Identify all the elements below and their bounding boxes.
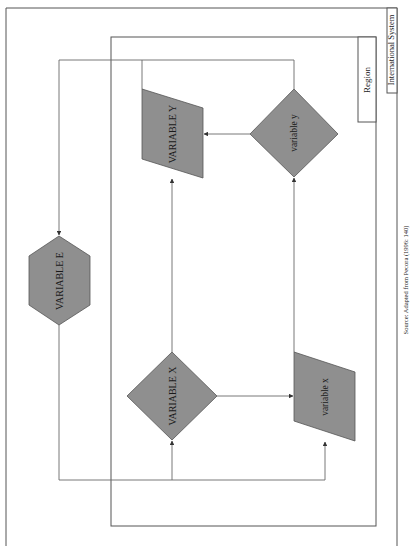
node-variable-X-upper-label: VARIABLE X [167, 366, 178, 426]
node-variable-E-label: VARIABLE E [54, 252, 65, 310]
node-variable-E: VARIABLE E [29, 236, 90, 325]
node-variable-x-lower-label: variable x [320, 378, 330, 416]
international-system-label: International System [386, 14, 396, 85]
node-variable-y-lower-label: variable y [289, 114, 299, 152]
node-variable-X-upper: VARIABLE X [127, 352, 217, 440]
region-label: Region [362, 67, 372, 93]
node-variable-Y-upper-label: VARIABLE Y [167, 105, 178, 164]
node-variable-y-lower: variable y [250, 89, 338, 177]
node-variable-x-lower: variable x [294, 352, 355, 441]
source-caption: Source: Adapted from Pecora (1996: 140) [402, 226, 410, 335]
node-variable-Y-upper: VARIABLE Y [142, 89, 203, 178]
flow-diagram: International System Region Source: Adap… [0, 0, 414, 546]
